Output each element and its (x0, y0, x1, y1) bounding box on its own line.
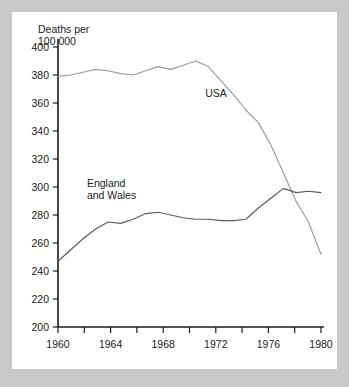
series-label-england-wales-line2: and Wales (87, 189, 136, 201)
y-tick-label: 260 (31, 237, 49, 249)
x-tick-label: 1976 (257, 338, 281, 350)
y-tick-label: 340 (31, 125, 49, 137)
x-tick-label: 1964 (99, 338, 123, 350)
y-tick-label: 240 (31, 265, 49, 277)
y-axis-tick-labels: 200220240260280300320340360380400 (31, 41, 49, 333)
x-tick-label: 1972 (204, 338, 228, 350)
figure-root: Deaths per 100 000 200220240260280300320… (0, 0, 349, 387)
series-line (58, 61, 321, 254)
series-annotations: USA England and Wales (87, 87, 227, 201)
y-tick-label: 220 (31, 293, 49, 305)
y-tick-label: 300 (31, 181, 49, 193)
series-label-usa: USA (205, 87, 227, 99)
y-axis-title-line1: Deaths per (38, 23, 90, 35)
figure-plate: Deaths per 100 000 200220240260280300320… (12, 12, 337, 369)
x-axis-tick-marks (58, 327, 321, 333)
x-tick-label: 1980 (309, 338, 333, 350)
y-tick-label: 380 (31, 69, 49, 81)
y-tick-label: 320 (31, 153, 49, 165)
line-chart: Deaths per 100 000 200220240260280300320… (12, 12, 337, 369)
y-tick-label: 360 (31, 97, 49, 109)
x-tick-label: 1968 (152, 338, 176, 350)
y-tick-label: 280 (31, 209, 49, 221)
series-lines (58, 61, 321, 261)
x-tick-label: 1960 (46, 338, 70, 350)
x-axis-tick-labels: 196019641968197219761980 (46, 338, 333, 350)
y-tick-label: 400 (31, 41, 49, 53)
series-label-england-wales-line1: England (87, 177, 126, 189)
chart-area: Deaths per 100 000 200220240260280300320… (12, 12, 337, 369)
y-tick-label: 200 (31, 321, 49, 333)
